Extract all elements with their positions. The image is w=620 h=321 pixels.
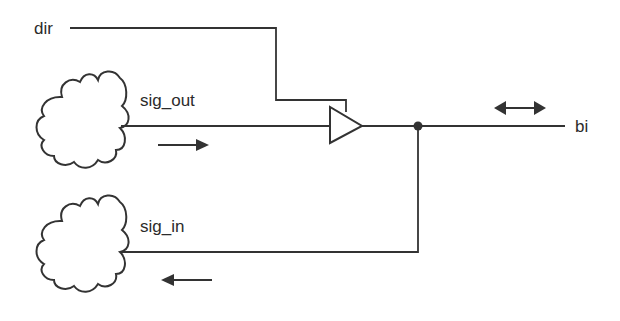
- label-sig-out: sig_out: [140, 91, 195, 110]
- arrow-bidirectional-icon: [494, 101, 546, 115]
- cloud-sig-in-icon: [37, 195, 129, 291]
- arrow-left-icon: [161, 274, 212, 286]
- cloud-sig-out-icon: [37, 71, 129, 167]
- label-sig-in: sig_in: [140, 217, 184, 236]
- buffer-triangle-icon: [330, 107, 362, 143]
- label-dir: dir: [34, 19, 53, 38]
- label-bi: bi: [575, 117, 588, 136]
- arrow-right-icon: [158, 139, 209, 151]
- schematic-canvas: dir sig_out bi sig_in: [0, 0, 620, 321]
